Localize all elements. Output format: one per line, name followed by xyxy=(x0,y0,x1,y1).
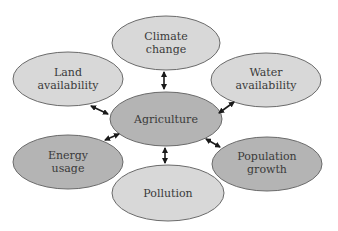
node-water-availability: Water availability xyxy=(211,53,321,107)
label-land-line1: Land xyxy=(54,66,82,79)
label-climate-line1: Climate xyxy=(144,30,187,43)
label-water-line1: Water xyxy=(249,66,283,79)
label-population-line2: growth xyxy=(247,163,287,176)
label-energy-line1: Energy xyxy=(48,149,89,162)
label-land-line2: availability xyxy=(37,79,99,92)
node-pollution: Pollution xyxy=(112,165,224,221)
node-agriculture: Agriculture xyxy=(110,92,222,146)
label-water-line2: availability xyxy=(235,79,297,92)
label-climate-line2: change xyxy=(146,43,186,56)
label-energy-line2: usage xyxy=(52,162,85,175)
label-population-line1: Population xyxy=(237,150,296,163)
arrow-agriculture-land xyxy=(91,106,108,114)
node-land-availability: Land availability xyxy=(13,52,123,106)
arrow-agriculture-water xyxy=(219,102,234,113)
diagram-svg: Climate change Land availability Water a… xyxy=(0,0,338,231)
arrow-agriculture-energy xyxy=(105,134,119,140)
node-climate-change: Climate change xyxy=(112,16,220,70)
node-population-growth: Population growth xyxy=(212,137,322,191)
label-pollution: Pollution xyxy=(143,187,192,200)
node-energy-usage: Energy usage xyxy=(13,135,123,189)
label-agriculture: Agriculture xyxy=(133,113,198,126)
diagram-canvas: Climate change Land availability Water a… xyxy=(0,0,338,231)
arrow-agriculture-population xyxy=(206,139,220,147)
